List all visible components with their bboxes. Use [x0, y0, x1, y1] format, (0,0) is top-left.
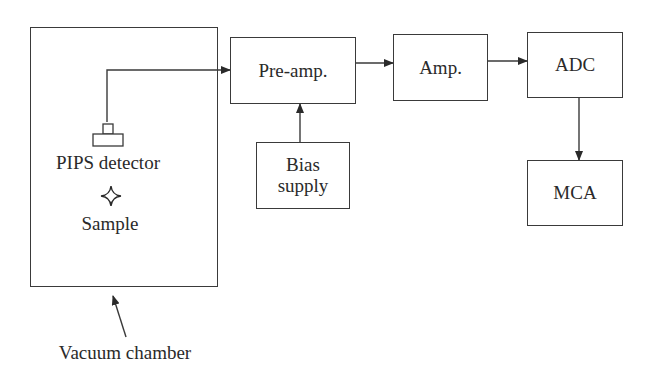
bias-label-line2: supply [257, 176, 349, 198]
adc-box: ADC [527, 32, 623, 98]
adc-label: ADC [528, 54, 622, 76]
mca-label: MCA [528, 182, 622, 204]
preamp-box: Pre-amp. [230, 37, 356, 104]
vacuum-chamber-pointer-arrow [113, 296, 126, 337]
amp-box: Amp. [393, 34, 488, 101]
bias-supply-label: Bias supply [257, 154, 349, 198]
detector-label: PIPS detector [48, 152, 168, 174]
mca-box: MCA [527, 160, 623, 226]
bias-label-line1: Bias [257, 154, 349, 176]
bias-supply-box: Bias supply [256, 142, 350, 209]
preamp-label: Pre-amp. [231, 60, 355, 82]
amp-label: Amp. [394, 57, 487, 79]
vacuum-chamber-label: Vacuum chamber [40, 342, 210, 364]
sample-label: Sample [60, 213, 160, 235]
